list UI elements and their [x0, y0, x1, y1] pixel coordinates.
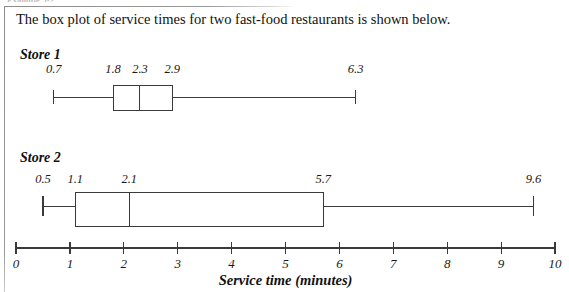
- axis-tick-label-3: 3: [174, 256, 181, 272]
- axis-tick-label-5: 5: [282, 256, 289, 272]
- axis-tick-label-4: 4: [228, 256, 235, 272]
- box-2: [75, 192, 323, 226]
- axis-tick-label-10: 10: [549, 256, 562, 272]
- value-label-q1-store-2: 1.1: [67, 172, 83, 187]
- value-label-min-store-1: 0.7: [46, 62, 62, 77]
- axis-caption: Service time (minutes): [219, 272, 353, 289]
- value-label-max-store-2: 9.6: [526, 172, 542, 187]
- axis-tick-label-9: 9: [498, 256, 505, 272]
- value-label-median-store-2: 2.1: [121, 172, 137, 187]
- value-label-max-store-1: 6.3: [348, 62, 364, 77]
- axis-tick-label-2: 2: [121, 256, 128, 272]
- box-1: [113, 85, 172, 110]
- boxplot-graphic: [0, 0, 569, 292]
- worksheet-page: Example 5-2 The box plot of service time…: [0, 0, 569, 292]
- axis-tick-label-0: 0: [13, 256, 20, 272]
- value-label-median-store-1: 2.3: [132, 62, 148, 77]
- axis-tick-label-6: 6: [336, 256, 343, 272]
- axis-tick-label-7: 7: [390, 256, 397, 272]
- axis-tick-label-1: 1: [67, 256, 74, 272]
- axis-tick-label-8: 8: [444, 256, 451, 272]
- value-label-q3-store-2: 5.7: [315, 172, 331, 187]
- value-label-min-store-2: 0.5: [35, 172, 51, 187]
- value-label-q3-store-1: 2.9: [164, 62, 180, 77]
- value-label-q1-store-1: 1.8: [105, 62, 121, 77]
